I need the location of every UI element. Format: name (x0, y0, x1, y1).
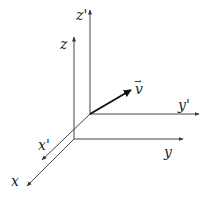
label-z: z (59, 36, 68, 52)
label-x-prime: x' (38, 137, 50, 153)
label-y: y (163, 144, 173, 160)
velocity-vector (90, 90, 131, 114)
primed-frame (42, 10, 199, 160)
label-x: x (11, 173, 19, 189)
unprimed-frame (27, 37, 183, 186)
x-axis (27, 139, 74, 186)
label-y-prime: y' (177, 97, 190, 113)
label-v-arrow: → (134, 76, 142, 86)
label-z-prime: z' (75, 7, 87, 23)
frames-diagram: z' z y' y x' x v → (0, 0, 213, 200)
